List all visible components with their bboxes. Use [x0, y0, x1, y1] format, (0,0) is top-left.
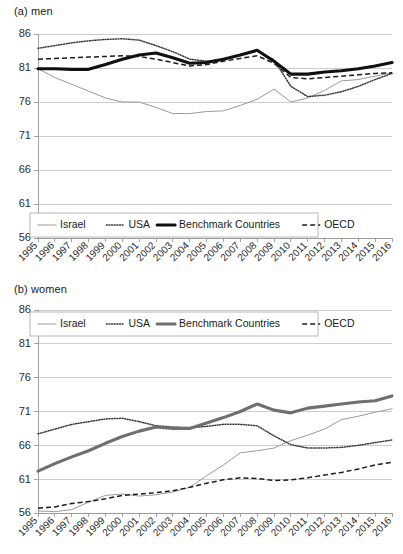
- y-axis-tick-label: 61: [19, 473, 31, 485]
- series-line-usa: [38, 418, 392, 448]
- legend-label-israel: Israel: [60, 317, 86, 329]
- y-axis-tick-label: 66: [19, 163, 31, 175]
- series-line-israel: [38, 69, 392, 114]
- legend-label-benchmark-countries: Benchmark Countries: [179, 218, 280, 230]
- series-line-israel: [38, 409, 392, 512]
- y-axis-tick-label: 81: [19, 337, 31, 349]
- chart-panel-men: (a) men 56616671768186199519961997199819…: [0, 0, 403, 281]
- y-axis-tick-label: 76: [19, 95, 31, 107]
- y-axis-tick-label: 76: [19, 371, 31, 383]
- plot-area-women: 5661667176818619951996199719981999200020…: [0, 281, 403, 554]
- legend-label-oecd: OECD: [324, 218, 355, 230]
- y-axis-tick-label: 61: [19, 197, 31, 209]
- y-axis-tick-label: 86: [19, 303, 31, 315]
- plot-area-men: 5661667176818619951996199719981999200020…: [0, 0, 403, 281]
- legend-label-usa: USA: [128, 218, 150, 230]
- y-axis-tick-label: 66: [19, 439, 31, 451]
- legend-label-usa: USA: [128, 317, 150, 329]
- series-line-benchmark-countries: [38, 396, 392, 471]
- y-axis-tick-label: 81: [19, 61, 31, 73]
- y-axis-tick-label: 86: [19, 27, 31, 39]
- chart-panel-women: (b) women 566166717681861995199619971998…: [0, 281, 403, 554]
- legend-label-oecd: OECD: [324, 317, 355, 329]
- y-axis-tick-label: 71: [19, 129, 31, 141]
- y-axis-tick-label: 71: [19, 405, 31, 417]
- legend-label-israel: Israel: [60, 218, 86, 230]
- x-axis-tick-label: 2016: [370, 239, 394, 263]
- x-axis-tick-label: 2016: [370, 514, 394, 538]
- chart-svg-women: 5661667176818619951996199719981999200020…: [0, 281, 403, 554]
- chart-svg-men: 5661667176818619951996199719981999200020…: [0, 0, 403, 281]
- legend-label-benchmark-countries: Benchmark Countries: [179, 317, 280, 329]
